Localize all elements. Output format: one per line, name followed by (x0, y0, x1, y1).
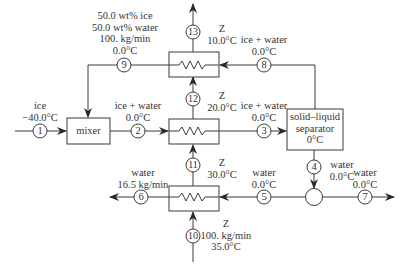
stream-12-label: Z 20.0°C (200, 90, 244, 113)
stream-5-label: water 0.0°C (244, 167, 284, 190)
stream-7-number: 7 (358, 191, 372, 203)
separator-label: solid–liquid separator 0°C (287, 111, 343, 146)
stream-5-number: 5 (257, 191, 271, 203)
stream-1-number: 1 (33, 125, 47, 137)
stream-9-label: 50.0 wt% ice 50.0 wt% water 100. kg/min … (90, 10, 160, 56)
stream-6-label: water 16.5 kg/min (114, 167, 172, 190)
stream-3-number: 3 (257, 125, 271, 137)
stream-7-label: water 0.0°C (345, 167, 385, 190)
stream-3-label: ice + water 0.0°C (236, 100, 292, 123)
stream-4-number: 4 (307, 161, 321, 173)
stream-6-number: 6 (134, 191, 148, 203)
stream-9-number: 9 (117, 59, 131, 71)
stream-13-label: Z 10.0°C (200, 23, 244, 46)
stream-8-number: 8 (257, 59, 271, 71)
stream-11-label: Z 30.0°C (200, 157, 244, 180)
hx-bottom-box (169, 186, 219, 211)
stream-2-label: ice + water 0.0°C (110, 100, 166, 123)
stream-10-label: Z 100. kg/min 35.0°C (198, 218, 254, 253)
splitter-junction (306, 189, 323, 206)
stream-2-number: 2 (131, 125, 145, 137)
mixer-label: mixer (67, 125, 110, 137)
stream-1-label: ice −40.0°C (15, 100, 65, 123)
